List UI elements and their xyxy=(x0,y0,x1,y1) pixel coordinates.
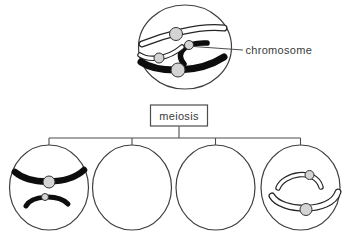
centromere xyxy=(42,194,49,201)
daughter-cell-4-membrane xyxy=(261,145,340,230)
daughter-cell-3 xyxy=(176,145,255,230)
daughter-cell-1 xyxy=(10,145,89,230)
daughter-cell-3-membrane xyxy=(176,145,255,230)
centromere xyxy=(154,53,164,63)
connector-lines xyxy=(49,127,301,146)
meiosis-label: meiosis xyxy=(159,110,199,122)
chromosome-label: chromosome xyxy=(246,44,313,56)
daughter-cell-2-membrane xyxy=(93,145,172,230)
diagram-canvas: chromosome meiosis xyxy=(0,0,352,246)
centromere xyxy=(305,171,314,180)
meiosis-box: meiosis xyxy=(151,105,208,126)
centromere xyxy=(171,63,185,77)
centromere xyxy=(300,204,312,216)
centromere xyxy=(43,176,55,188)
labeled-chromosome-centromere xyxy=(185,41,194,50)
daughter-cell-2 xyxy=(93,145,172,230)
parent-cell xyxy=(139,5,232,89)
centromere xyxy=(170,28,183,41)
daughter-cell-4 xyxy=(261,145,340,230)
meiosis-diagram: chromosome meiosis xyxy=(0,0,352,246)
